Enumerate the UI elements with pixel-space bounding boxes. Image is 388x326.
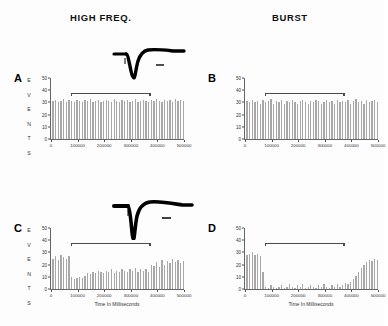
histogram-bar bbox=[108, 272, 109, 289]
panel-c-ylabel: E V E N T S bbox=[24, 228, 34, 306]
histogram-bar bbox=[337, 284, 338, 289]
histogram-bar bbox=[308, 104, 309, 139]
histogram-bar bbox=[323, 102, 324, 139]
stimulus-period-cap bbox=[265, 93, 266, 97]
histogram-bar bbox=[347, 100, 348, 139]
y-tick-label: 50 bbox=[42, 226, 47, 231]
histogram-bar bbox=[103, 273, 104, 289]
panel-d-letter: D bbox=[208, 222, 216, 234]
x-tick-mark bbox=[78, 140, 79, 142]
histogram-bar bbox=[100, 102, 101, 139]
ylabel-letter: S bbox=[27, 301, 30, 306]
panel-a-plot: 01020304050 0100000200000300000400000500… bbox=[34, 78, 186, 152]
histogram-bar bbox=[92, 102, 93, 139]
histogram-bar bbox=[313, 287, 314, 289]
histogram-bar bbox=[305, 288, 306, 289]
histogram-bar bbox=[284, 288, 285, 289]
histogram-bar bbox=[337, 100, 338, 139]
histogram-bar bbox=[127, 272, 128, 289]
histogram-bar bbox=[339, 287, 340, 289]
panel-b-plot: 01020304050 0100000200000300000400000500… bbox=[228, 78, 380, 152]
y-tick-label: 0 bbox=[44, 137, 47, 142]
panel-c-letter: C bbox=[14, 222, 22, 234]
y-tick-label: 0 bbox=[238, 137, 241, 142]
histogram-bar bbox=[100, 272, 101, 289]
histogram-bar bbox=[331, 101, 332, 139]
x-tick-mark bbox=[184, 140, 185, 142]
x-tick-label: 500000 bbox=[371, 293, 386, 298]
histogram-bar bbox=[132, 101, 133, 139]
histogram-bar bbox=[167, 261, 168, 289]
histogram-bar bbox=[278, 102, 279, 139]
x-tick-mark bbox=[325, 140, 326, 142]
histogram-bar bbox=[284, 104, 285, 139]
histogram-bar bbox=[329, 288, 330, 289]
x-tick-mark bbox=[378, 290, 379, 292]
ylabel-letter: S bbox=[27, 151, 30, 156]
histogram-bar bbox=[92, 272, 93, 289]
stimulus-period-cap bbox=[149, 93, 150, 97]
histogram-bar bbox=[119, 102, 120, 139]
histogram-bar bbox=[345, 283, 346, 289]
x-tick-mark bbox=[131, 140, 132, 142]
x-tick-mark bbox=[298, 290, 299, 292]
histogram-bar bbox=[98, 271, 99, 289]
histogram-bar bbox=[76, 100, 77, 139]
histogram-bar bbox=[108, 101, 109, 139]
histogram-bar bbox=[68, 100, 69, 139]
histogram-bar bbox=[339, 102, 340, 139]
ylabel-letter: N bbox=[27, 122, 31, 127]
ylabel-letter: N bbox=[27, 272, 31, 277]
histogram-bar bbox=[268, 101, 269, 139]
x-tick-mark bbox=[157, 140, 158, 142]
histogram-bar bbox=[137, 272, 138, 289]
x-tick-label: 0 bbox=[50, 143, 52, 148]
column-header-burst: BURST bbox=[272, 12, 308, 23]
histogram-bar bbox=[289, 284, 290, 289]
y-tick-label: 30 bbox=[42, 250, 47, 255]
histogram-bar bbox=[140, 101, 141, 139]
histogram-bar bbox=[177, 101, 178, 139]
panel-d-axes bbox=[244, 228, 378, 290]
histogram-bar bbox=[172, 102, 173, 139]
stimulus-period-bar bbox=[265, 93, 343, 94]
y-tick-label: 50 bbox=[42, 76, 47, 81]
panel-d-xaxis-ticks: 0100000200000300000400000500000 bbox=[244, 290, 378, 300]
histogram-bar bbox=[350, 282, 351, 289]
stimulus-period-cap bbox=[343, 93, 344, 97]
histogram-bar bbox=[143, 271, 144, 289]
histogram-bar bbox=[300, 287, 301, 289]
x-tick-label: 300000 bbox=[317, 143, 332, 148]
ylabel-letter: V bbox=[27, 243, 30, 248]
stimulus-period-cap bbox=[71, 243, 72, 247]
x-tick-label: 200000 bbox=[97, 143, 112, 148]
histogram-bar bbox=[103, 101, 104, 139]
histogram-bar bbox=[281, 100, 282, 139]
stimulus-period-cap bbox=[343, 243, 344, 247]
histogram-bar bbox=[249, 254, 250, 289]
histogram-bar bbox=[342, 101, 343, 139]
histogram-bar bbox=[151, 100, 152, 139]
x-tick-label: 100000 bbox=[264, 293, 279, 298]
x-tick-label: 0 bbox=[244, 143, 246, 148]
histogram-bar bbox=[257, 254, 258, 289]
x-tick-mark bbox=[351, 290, 352, 292]
y-tick-label: 30 bbox=[236, 100, 241, 105]
histogram-bar bbox=[310, 101, 311, 139]
x-tick-mark bbox=[351, 140, 352, 142]
histogram-bar bbox=[286, 101, 287, 139]
histogram-bar bbox=[137, 102, 138, 139]
y-tick-label: 20 bbox=[236, 112, 241, 117]
histogram-bar bbox=[111, 269, 112, 289]
histogram-bar bbox=[252, 100, 253, 139]
histogram-bar bbox=[276, 101, 277, 139]
histogram-bar bbox=[310, 285, 311, 289]
x-tick-mark bbox=[131, 290, 132, 292]
histogram-bar bbox=[377, 260, 378, 289]
histogram-bar bbox=[278, 287, 279, 289]
histogram-bar bbox=[268, 288, 269, 289]
histogram-bar bbox=[90, 99, 91, 139]
histogram-bar bbox=[369, 260, 370, 289]
histogram-bar bbox=[121, 100, 122, 139]
stimulus-period-bar bbox=[265, 243, 343, 244]
